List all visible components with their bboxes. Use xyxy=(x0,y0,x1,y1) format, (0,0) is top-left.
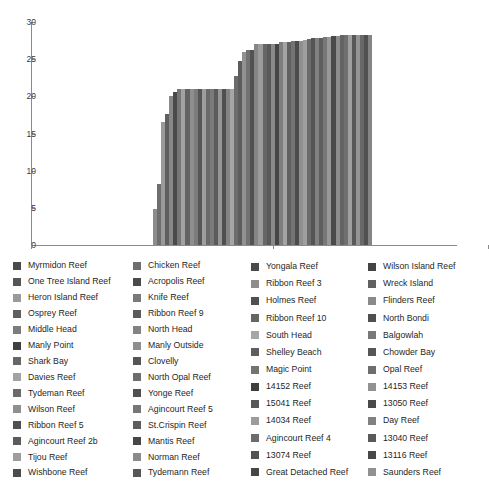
legend-item[interactable]: Shelley Beach xyxy=(251,344,368,361)
legend-item-label: Osprey Reef xyxy=(28,309,77,318)
legend-item-label: Wishbone Reef xyxy=(28,468,87,477)
legend-item[interactable]: Magic Point xyxy=(251,361,368,378)
legend-item[interactable]: Saunders Reef xyxy=(368,464,480,481)
legend-item-label: Shark Bay xyxy=(28,357,68,366)
y-tick-label: 25 xyxy=(12,55,36,63)
legend-item[interactable]: North Opal Reef xyxy=(133,369,251,385)
legend-swatch-icon xyxy=(251,434,259,442)
legend-item[interactable]: 15041 Reef xyxy=(251,395,368,412)
legend-item[interactable]: Yonge Reef xyxy=(133,385,251,401)
legend-swatch-icon xyxy=(368,434,376,442)
legend-swatch-icon xyxy=(133,373,141,381)
legend-item[interactable]: Ribbon Reef 10 xyxy=(251,309,368,326)
legend-item[interactable]: 13116 Reef xyxy=(368,447,480,464)
legend-item-label: Day Reef xyxy=(383,416,419,425)
legend-item[interactable]: Manly Outside xyxy=(133,338,251,354)
legend-swatch-icon xyxy=(251,348,259,356)
legend-item[interactable]: 13074 Reef xyxy=(251,447,368,464)
legend-item[interactable]: Yongala Reef xyxy=(251,258,368,275)
legend-item-label: Davies Reef xyxy=(28,373,75,382)
y-tick-label-wrap: 25 xyxy=(0,55,36,63)
legend-item[interactable]: Middle Head xyxy=(13,322,133,338)
legend-item[interactable]: Opal Reef xyxy=(368,361,480,378)
legend-item[interactable]: Norman Reef xyxy=(133,449,251,465)
legend-item[interactable]: Myrmidon Reef xyxy=(13,258,133,274)
legend-item[interactable]: Day Reef xyxy=(368,412,480,429)
legend-item[interactable]: Tydeman Reef xyxy=(13,385,133,401)
legend-item-label: Ribbon Reef 10 xyxy=(266,314,326,323)
legend-item[interactable]: North Bondi xyxy=(368,309,480,326)
legend-item[interactable]: Manly Point xyxy=(13,338,133,354)
legend-item-label: 14034 Reef xyxy=(266,416,311,425)
legend-item[interactable]: Clovelly xyxy=(133,354,251,370)
legend-item-label: 13050 Reef xyxy=(383,399,428,408)
legend-item-label: St.Crispin Reef xyxy=(148,421,206,430)
legend-item-label: Magic Point xyxy=(266,365,311,374)
legend-swatch-icon xyxy=(133,421,141,429)
legend-item-label: Tijou Reef xyxy=(28,453,67,462)
legend-item[interactable]: Balgowlah xyxy=(368,327,480,344)
legend-item[interactable]: St.Crispin Reef xyxy=(133,417,251,433)
legend-item[interactable]: Davies Reef xyxy=(13,369,133,385)
legend-swatch-icon xyxy=(251,331,259,339)
legend-item-label: Agincourt Reef 4 xyxy=(266,434,331,443)
legend-item[interactable]: 13050 Reef xyxy=(368,395,480,412)
legend-item[interactable]: South Head xyxy=(251,327,368,344)
legend-item[interactable]: Agincourt Reef 2b xyxy=(13,433,133,449)
y-tick-label-wrap: 5 xyxy=(0,204,36,212)
legend-swatch-icon xyxy=(368,297,376,305)
legend-item-label: Wreck Island xyxy=(383,279,433,288)
legend-item-label: 13116 Reef xyxy=(383,451,427,460)
y-tick-label-wrap: 15 xyxy=(0,130,36,138)
legend-item[interactable]: 14034 Reef xyxy=(251,412,368,429)
legend-item[interactable]: Wilson Reef xyxy=(13,401,133,417)
legend-swatch-icon xyxy=(13,373,21,381)
legend-item[interactable]: Osprey Reef xyxy=(13,306,133,322)
legend-swatch-icon xyxy=(251,314,259,322)
legend-column: Myrmidon ReefOne Tree Island ReefHeron I… xyxy=(13,258,133,481)
legend-item[interactable]: Flinders Reef xyxy=(368,292,480,309)
legend-item[interactable]: 13040 Reef xyxy=(368,430,480,447)
legend-item[interactable]: Acropolis Reef xyxy=(133,274,251,290)
legend-item[interactable]: Shark Bay xyxy=(13,354,133,370)
legend-item[interactable]: Holmes Reef xyxy=(251,292,368,309)
legend-swatch-icon xyxy=(133,278,141,286)
legend-item-label: Myrmidon Reef xyxy=(28,261,87,270)
legend-item[interactable]: Ribbon Reef 3 xyxy=(251,275,368,292)
legend-item[interactable]: Ribbon Reef 5 xyxy=(13,417,133,433)
legend-item[interactable]: 14153 Reef xyxy=(368,378,480,395)
legend-swatch-icon xyxy=(251,451,259,459)
legend-item[interactable]: Wilson Island Reef xyxy=(368,258,480,275)
legend-item-label: Knife Reef xyxy=(148,293,189,302)
legend-item[interactable]: Agincourt Reef 4 xyxy=(251,430,368,447)
legend-item[interactable]: Chowder Bay xyxy=(368,344,480,361)
legend-swatch-icon xyxy=(251,400,259,408)
legend-item[interactable]: Tydemann Reef xyxy=(133,465,251,481)
legend-item[interactable]: One Tree Island Reef xyxy=(13,274,133,290)
legend-item-label: Saunders Reef xyxy=(383,468,441,477)
legend-item-label: 15041 Reef xyxy=(266,399,311,408)
legend-swatch-icon xyxy=(133,326,141,334)
legend-item-label: South Head xyxy=(266,331,312,340)
legend-item-label: Norman Reef xyxy=(148,453,200,462)
legend-item[interactable]: Ribbon Reef 9 xyxy=(133,306,251,322)
y-tick-label-wrap: 20 xyxy=(0,92,36,100)
legend-item-label: Shelley Beach xyxy=(266,348,322,357)
legend-item[interactable]: North Head xyxy=(133,322,251,338)
legend-item[interactable]: Agincourt Reef 5 xyxy=(133,401,251,417)
legend-swatch-icon xyxy=(368,417,376,425)
legend-item[interactable]: Mantis Reef xyxy=(133,433,251,449)
legend-swatch-icon xyxy=(368,263,376,271)
legend-item[interactable]: Knife Reef xyxy=(133,290,251,306)
legend-item[interactable]: Wreck Island xyxy=(368,275,480,292)
legend-item-label: Middle Head xyxy=(28,325,77,334)
legend-item[interactable]: 14152 Reef xyxy=(251,378,368,395)
legend-item[interactable]: Great Detached Reef xyxy=(251,464,368,481)
legend-item[interactable]: Tijou Reef xyxy=(13,449,133,465)
legend-swatch-icon xyxy=(13,262,21,270)
legend-swatch-icon xyxy=(251,468,259,476)
legend-item[interactable]: Heron Island Reef xyxy=(13,290,133,306)
legend-item[interactable]: Wishbone Reef xyxy=(13,465,133,481)
legend-item[interactable]: Chicken Reef xyxy=(133,258,251,274)
legend-item-label: Great Detached Reef xyxy=(266,468,348,477)
